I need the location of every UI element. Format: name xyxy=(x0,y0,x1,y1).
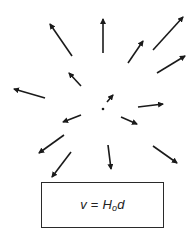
hubble-law-box: v = Hod xyxy=(41,182,164,228)
arrow-left-lower-short-icon xyxy=(63,115,81,122)
arrow-left-upper-short-icon xyxy=(69,73,81,86)
arrow-lower-left-icon xyxy=(39,135,64,153)
arrow-near-center-icon xyxy=(107,95,113,102)
observer-dot xyxy=(102,108,105,111)
distance-symbol: d xyxy=(117,197,124,212)
arrow-right-lower-short-icon xyxy=(121,117,137,124)
hubble-law-equation: v = Hod xyxy=(80,197,124,213)
arrow-lower-right-icon xyxy=(153,146,177,163)
arrow-upper-left-long-icon xyxy=(50,24,72,56)
velocity-symbol: v xyxy=(80,197,87,212)
arrow-down-icon xyxy=(108,145,111,169)
arrow-down-left-long-icon xyxy=(52,152,71,177)
arrow-right-icon xyxy=(138,104,163,107)
arrow-left-icon xyxy=(14,89,45,98)
equals-sign: = xyxy=(87,197,102,212)
hubble-constant-symbol: H xyxy=(102,197,112,212)
arrow-right-upper-icon xyxy=(157,56,185,73)
arrow-upper-right-long-icon xyxy=(153,17,183,50)
arrow-upper-right-short-icon xyxy=(128,41,143,63)
velocity-arrows xyxy=(14,17,185,177)
